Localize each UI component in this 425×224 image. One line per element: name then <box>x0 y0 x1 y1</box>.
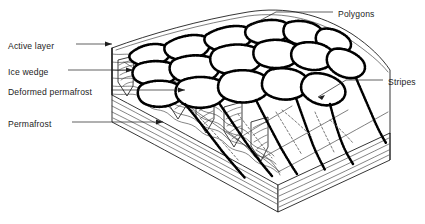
polygon-network <box>129 20 365 108</box>
block-diagram: Active layer Ice wedge Deformed permafro… <box>0 0 425 224</box>
label-stripes: Stripes <box>388 77 416 87</box>
label-deformed-permafrost: Deformed permafrost <box>8 87 93 97</box>
label-polygons: Polygons <box>338 9 375 19</box>
figure-root: Active layer Ice wedge Deformed permafro… <box>0 0 425 224</box>
label-active-layer: Active layer <box>8 41 54 51</box>
label-permafrost: Permafrost <box>8 119 52 129</box>
label-ice-wedge: Ice wedge <box>8 67 49 77</box>
